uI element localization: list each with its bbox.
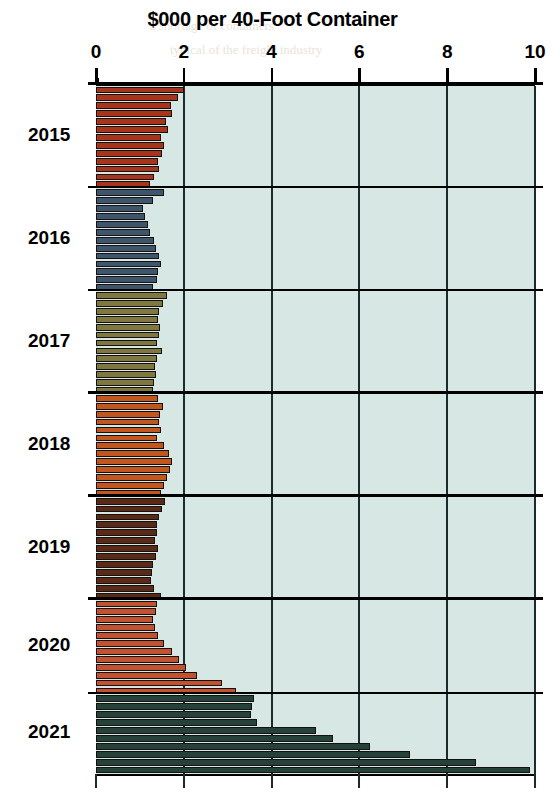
bar xyxy=(96,126,168,133)
bar xyxy=(96,340,157,347)
bar xyxy=(96,324,160,331)
gridline xyxy=(534,86,536,774)
bar xyxy=(96,411,160,418)
bottom-tick-mark xyxy=(95,774,97,788)
bar xyxy=(96,253,159,260)
bar xyxy=(96,205,143,212)
bar xyxy=(96,553,156,560)
bottom-tick-mark xyxy=(271,774,273,788)
x-axis-tick-label: 2 xyxy=(179,41,190,63)
bar xyxy=(96,680,222,687)
bar xyxy=(96,608,156,615)
bar xyxy=(96,450,169,457)
bar xyxy=(96,537,155,544)
year-label-2018: 2018 xyxy=(28,433,90,455)
bar xyxy=(96,735,333,742)
bottom-tick-mark xyxy=(446,774,448,788)
year-label-2021: 2021 xyxy=(28,721,90,743)
bar xyxy=(96,379,154,386)
bar xyxy=(96,197,153,204)
bar xyxy=(96,348,162,355)
bar xyxy=(96,427,161,434)
bar xyxy=(96,268,158,275)
gridline xyxy=(358,86,360,774)
bar xyxy=(96,189,164,196)
bar xyxy=(96,664,186,671)
bar xyxy=(96,403,163,410)
bar xyxy=(96,442,164,449)
bar xyxy=(96,158,158,165)
year-label-2015: 2015 xyxy=(28,124,90,146)
bar xyxy=(96,213,145,220)
bar xyxy=(96,521,157,528)
bar xyxy=(96,300,163,307)
bottom-tick-mark xyxy=(534,774,536,788)
bar xyxy=(96,174,154,181)
bar xyxy=(96,308,159,315)
year-label-2017: 2017 xyxy=(28,330,90,352)
x-axis-tick-label: 0 xyxy=(91,41,102,63)
bar xyxy=(96,150,162,157)
bar xyxy=(96,727,316,734)
bar xyxy=(96,656,179,663)
bar xyxy=(96,458,172,465)
chart-title: $000 per 40-Foot Container xyxy=(0,8,545,31)
bottom-tick-mark xyxy=(358,774,360,788)
bar xyxy=(96,245,156,252)
bar xyxy=(96,672,197,679)
year-group-separator xyxy=(88,391,543,394)
bar xyxy=(96,142,164,149)
year-group-separator xyxy=(88,494,543,497)
x-axis-tick-label: 6 xyxy=(354,41,365,63)
bar xyxy=(96,134,161,141)
bar xyxy=(96,624,155,631)
x-axis-tick-label: 8 xyxy=(442,41,453,63)
bar xyxy=(96,601,157,608)
bar xyxy=(96,632,158,639)
container-freight-rate-chart: $000 per 40-Foot Container 0246810 20152… xyxy=(0,0,560,795)
year-label-2019: 2019 xyxy=(28,536,90,558)
bar xyxy=(96,759,476,766)
bar xyxy=(96,648,172,655)
bar xyxy=(96,569,152,576)
bar xyxy=(96,166,159,173)
year-group-separator xyxy=(88,597,543,600)
bar xyxy=(96,506,162,513)
bar xyxy=(96,640,164,647)
bar xyxy=(96,395,158,402)
bar xyxy=(96,229,150,236)
bar xyxy=(96,514,159,521)
bar xyxy=(96,577,151,584)
bar xyxy=(96,237,154,244)
bar xyxy=(96,545,158,552)
year-group-separator xyxy=(88,186,543,189)
bar xyxy=(96,102,171,109)
bar xyxy=(96,419,159,426)
bar xyxy=(96,435,157,442)
bar xyxy=(96,561,153,568)
bar xyxy=(96,474,167,481)
bar xyxy=(96,695,254,702)
bar xyxy=(96,87,184,94)
gridline xyxy=(446,86,448,774)
bar xyxy=(96,585,154,592)
bar xyxy=(96,529,157,536)
bar xyxy=(96,355,157,362)
year-group-separator xyxy=(88,692,543,695)
year-group-separator xyxy=(88,289,543,292)
bottom-tick-mark xyxy=(183,774,185,788)
bar xyxy=(96,466,170,473)
bar xyxy=(96,94,178,101)
bar xyxy=(96,703,252,710)
bar xyxy=(96,711,251,718)
bar xyxy=(96,371,156,378)
bar xyxy=(96,332,159,339)
bar xyxy=(96,498,165,505)
x-axis-tick-label: 4 xyxy=(266,41,277,63)
bar xyxy=(96,482,164,489)
bar xyxy=(96,767,530,774)
bar xyxy=(96,118,166,125)
year-label-2016: 2016 xyxy=(28,227,90,249)
year-label-2020: 2020 xyxy=(28,634,90,656)
bar xyxy=(96,292,167,299)
